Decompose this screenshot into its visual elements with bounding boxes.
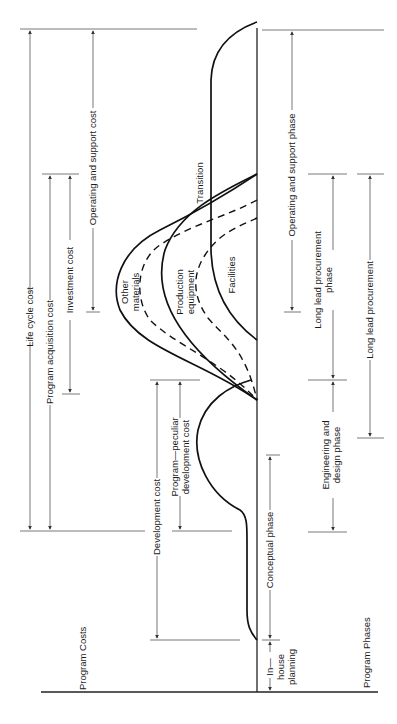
program-acquisition-cost-label: Program acquisition cost [44,300,55,404]
development-cost-span: Development cost [150,380,240,640]
operating-support-cost-span: Operating and support cost [86,31,100,312]
facilities-curve [196,218,257,400]
long-lead-label-1: Long lead procurement [364,261,375,359]
operating-support-cost-label: Operating and support cost [87,110,98,225]
other-materials-label-1: Other [119,280,130,304]
life-cycle-cost-span: Life cycle cost [24,31,35,529]
program-costs-label: Program Costs [77,626,88,690]
construction-label-1: Long lead procurement [312,231,323,329]
life-cycle-cost-label: Life cycle cost [24,287,35,347]
in-house-label-2: house [275,654,286,680]
in-house-planning-span: In— house planning [264,642,297,690]
operating-support-phase-span: Operating and support phase [284,32,301,312]
conceptual-label: Conceptual phase [264,512,275,589]
engineering-label-1: Engineering and [320,420,331,489]
development-curve [197,380,257,640]
production-label-1: Production [174,269,185,314]
program-peculiar-cost-span: Program—peculiar development cost [169,382,232,531]
program-peculiar-label-1: Program—peculiar [169,417,180,496]
facilities-label: Facilities [226,256,237,293]
conceptual-phase-span: Conceptual phase [264,455,280,638]
construction-phase-span: Long lead procurement phase [308,174,347,378]
construction-label-2: phase [323,267,334,293]
long-lead-phase-span: Long lead procurement [357,174,384,438]
life-cycle-cost-diagram: Life cycle cost Program acquisition cost… [0,0,397,724]
development-cost-label: Development cost [151,479,162,555]
program-phases-label: Program Phases [361,617,372,688]
in-house-label-1: In— [264,658,275,676]
investment-cost-label: Investment cost [64,246,75,313]
program-acquisition-cost-span: Program acquisition cost [42,174,79,529]
engineering-phase-span: Engineering and design phase [308,382,347,532]
in-house-label-3: planning [286,649,297,685]
investment-cost-span: Investment cost [62,176,80,394]
diagram-canvas: Life cycle cost Program acquisition cost… [0,0,397,724]
program-peculiar-label-2: development cost [180,419,191,494]
operating-support-phase-label: Operating and support phase [286,113,297,236]
engineering-label-2: design phase [331,427,342,484]
transition-label: Transition [194,162,205,203]
production-label-2: equipment [185,269,196,314]
other-materials-label-2: materials [130,272,141,311]
